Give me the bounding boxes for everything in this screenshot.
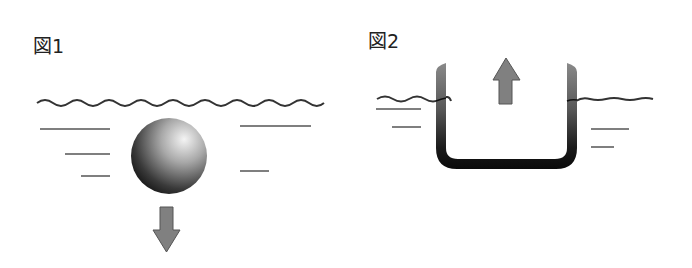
water-lines xyxy=(376,109,629,147)
diagram-canvas xyxy=(0,0,692,268)
arrow-up-icon xyxy=(493,58,520,104)
figure-2 xyxy=(376,58,653,169)
water-surface-wave xyxy=(37,100,324,106)
figure-1 xyxy=(37,100,324,252)
arrow-down-icon xyxy=(153,207,180,252)
water-surface-wave-right xyxy=(576,98,653,101)
sphere-icon xyxy=(131,118,207,194)
